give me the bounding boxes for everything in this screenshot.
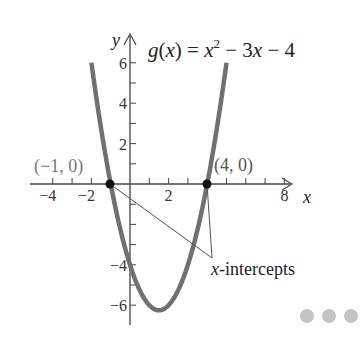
y-tick-label: −4 bbox=[110, 257, 127, 274]
pager-dots[interactable] bbox=[300, 309, 358, 323]
y-tick-label: −6 bbox=[110, 297, 127, 314]
intercept-point-right bbox=[203, 180, 212, 189]
x-tick-label: −4 bbox=[39, 187, 56, 204]
pager-dot-2[interactable] bbox=[322, 309, 336, 323]
pager-dot-3[interactable] bbox=[344, 309, 358, 323]
x-intercepts-annotation: x-intercepts bbox=[210, 259, 295, 279]
right-intercept-label: (4, 0) bbox=[214, 155, 253, 176]
x-tick-label: −2 bbox=[78, 187, 95, 204]
pager-dot-1[interactable] bbox=[300, 309, 314, 323]
x-tick-label: 2 bbox=[165, 187, 173, 204]
y-tick-label: 6 bbox=[119, 55, 127, 72]
y-axis-label: y bbox=[110, 30, 120, 50]
x-axis-label: x bbox=[302, 187, 311, 207]
y-tick-label: 2 bbox=[119, 136, 127, 153]
intercept-point-left bbox=[106, 180, 115, 189]
parabola-chart: −4−228642−4−6 x y g(x) = x2 − 3x − 4 (−1… bbox=[0, 0, 364, 342]
leader-line-right bbox=[207, 184, 212, 258]
left-intercept-label: (−1, 0) bbox=[34, 156, 83, 177]
title-equation: g(x) = x2 − 3x − 4 bbox=[148, 36, 296, 62]
x-tick-label: 8 bbox=[280, 187, 288, 204]
y-tick-label: 4 bbox=[119, 95, 127, 112]
